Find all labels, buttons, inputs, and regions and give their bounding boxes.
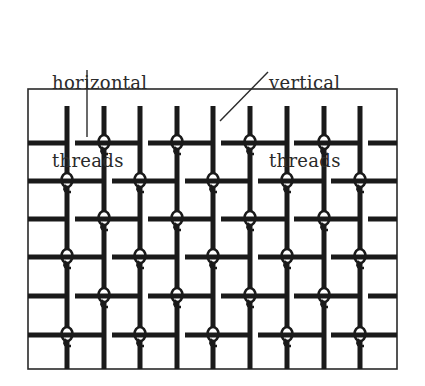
vertical-threads-leader [220,72,268,121]
label-vertical-threads: vertical threads [269,18,341,200]
label-vertical-line1: vertical [269,70,341,96]
label-horizontal-line2: threads [52,148,147,174]
label-horizontal-threads: horizontal threads [52,18,147,200]
label-horizontal-line1: horizontal [52,70,147,96]
label-vertical-line2: threads [269,148,341,174]
